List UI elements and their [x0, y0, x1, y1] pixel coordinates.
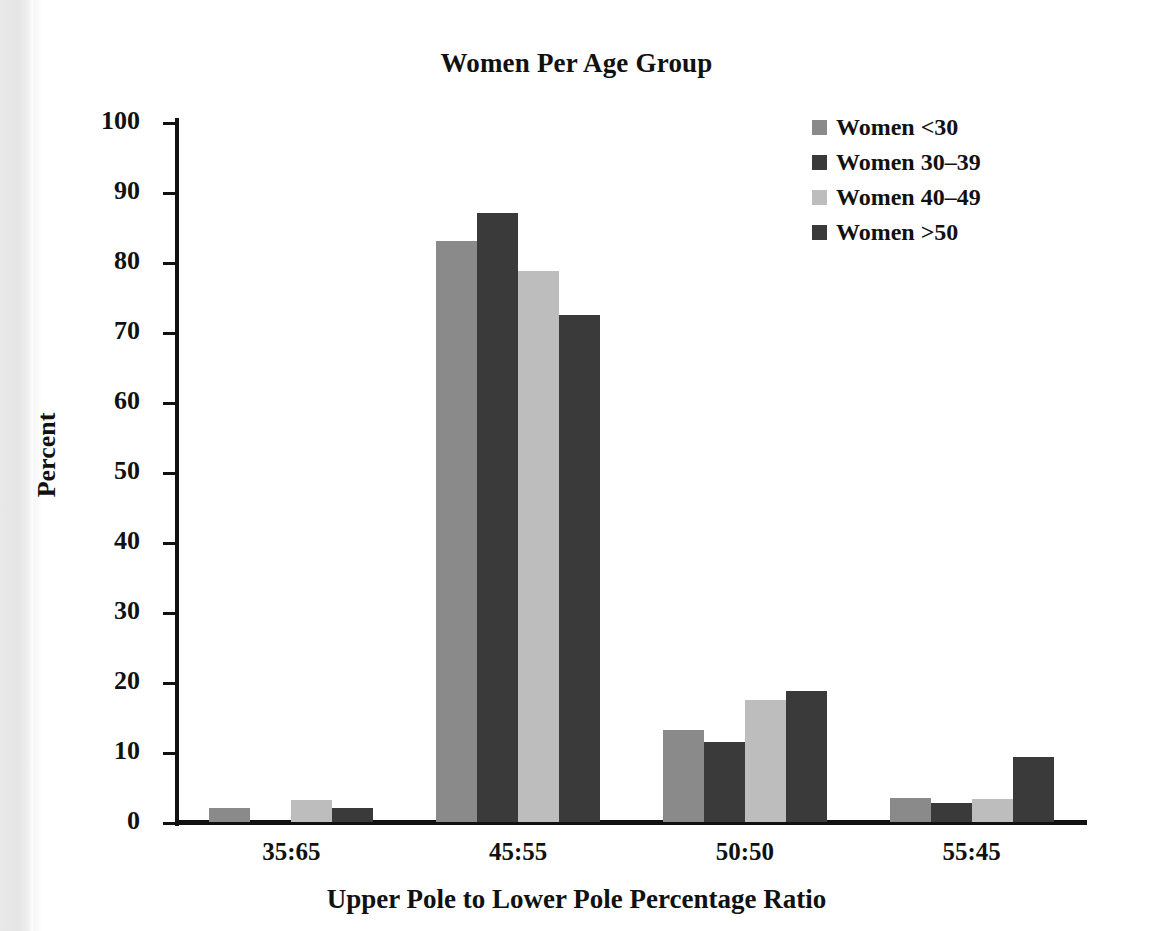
bar: [291, 800, 332, 822]
bar: [663, 730, 704, 822]
bar: [745, 700, 786, 822]
bar-chart-figure: Women Per Age Group 01020304050607080901…: [0, 0, 1153, 931]
y-tick-mark: [163, 402, 177, 405]
x-tick-label: 35:65: [181, 838, 401, 866]
legend-label: Women 40–49: [836, 184, 981, 211]
x-axis-title: Upper Pole to Lower Pole Percentage Rati…: [0, 884, 1153, 915]
x-tick-label: 55:45: [862, 838, 1082, 866]
legend-swatch-icon: [812, 155, 827, 170]
y-axis-title: Percent: [32, 375, 62, 535]
y-tick-label: 70: [20, 316, 140, 346]
bar-group: [663, 122, 827, 822]
legend-label: Women 30–39: [836, 149, 981, 176]
legend-swatch-icon: [812, 225, 827, 240]
y-tick-mark: [163, 262, 177, 265]
bar: [518, 271, 559, 822]
legend-item: Women 30–39: [812, 148, 1112, 177]
legend: Women <30Women 30–39Women 40–49Women >50: [812, 113, 1112, 253]
legend-swatch-icon: [812, 190, 827, 205]
y-tick-mark: [163, 332, 177, 335]
y-tick-label: 90: [20, 176, 140, 206]
y-tick-mark: [163, 752, 177, 755]
bar: [786, 691, 827, 822]
y-tick-mark: [163, 542, 177, 545]
bar: [559, 315, 600, 823]
bar: [704, 742, 745, 823]
bar: [436, 241, 477, 822]
legend-label: Women >50: [836, 219, 958, 246]
bar: [1013, 757, 1054, 822]
bar: [209, 808, 250, 822]
bar: [477, 213, 518, 822]
y-tick-mark: [163, 472, 177, 475]
bar: [332, 808, 373, 822]
y-tick-mark: [163, 822, 177, 825]
y-tick-mark: [163, 122, 177, 125]
x-tick-label: 50:50: [635, 838, 855, 866]
legend-item: Women <30: [812, 113, 1112, 142]
bar-group: [436, 122, 600, 822]
bar: [931, 803, 972, 822]
chart-title: Women Per Age Group: [0, 48, 1153, 79]
legend-item: Women 40–49: [812, 183, 1112, 212]
bar: [890, 798, 931, 823]
y-tick-mark: [163, 192, 177, 195]
y-tick-label: 80: [20, 246, 140, 276]
y-tick-mark: [163, 682, 177, 685]
y-tick-label: 20: [20, 666, 140, 696]
x-tick-label: 45:55: [408, 838, 628, 866]
legend-item: Women >50: [812, 218, 1112, 247]
legend-swatch-icon: [812, 120, 827, 135]
y-tick-label: 0: [20, 806, 140, 836]
bar: [972, 799, 1013, 822]
y-tick-label: 100: [20, 106, 140, 136]
legend-label: Women <30: [836, 114, 958, 141]
y-tick-label: 30: [20, 596, 140, 626]
y-tick-label: 10: [20, 736, 140, 766]
bar-group: [209, 122, 373, 822]
y-tick-mark: [163, 612, 177, 615]
